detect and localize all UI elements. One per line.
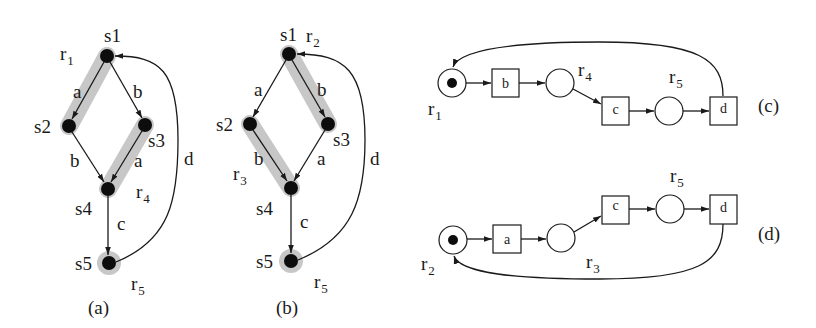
state-s1 bbox=[282, 47, 296, 61]
state-s2 bbox=[243, 117, 257, 131]
label-s2: s2 bbox=[216, 114, 233, 135]
place-r4 bbox=[546, 69, 574, 97]
token bbox=[448, 235, 458, 245]
label-s3: s3 bbox=[148, 130, 165, 151]
label-s1: s1 bbox=[280, 24, 297, 45]
edge-label-a: a bbox=[317, 148, 326, 169]
edge-label-a: a bbox=[134, 150, 143, 171]
state-s5 bbox=[102, 256, 116, 270]
place-r5 bbox=[656, 195, 684, 223]
edge-label-a: a bbox=[254, 79, 263, 100]
state-s4 bbox=[101, 182, 115, 196]
caption-a: (a) bbox=[88, 297, 109, 319]
caption-c: (c) bbox=[758, 95, 779, 117]
region-label-r3: r3 bbox=[233, 163, 247, 188]
region-label-r2: r2 bbox=[306, 25, 320, 50]
label-s4: s4 bbox=[256, 198, 273, 219]
place-label-r5: r5 bbox=[670, 165, 684, 190]
place-label-r4: r4 bbox=[578, 59, 592, 84]
edge-label-b: b bbox=[317, 79, 327, 100]
edge-label-a: a bbox=[73, 81, 82, 102]
state-s2 bbox=[62, 119, 76, 133]
edge-label-b: b bbox=[133, 81, 143, 102]
edge-label-d: d bbox=[370, 148, 380, 169]
place-label-r2: r2 bbox=[421, 253, 435, 278]
panel-d: a c d r2 r3 r5 (d) bbox=[421, 165, 780, 279]
edge-label-c: c bbox=[300, 211, 308, 232]
state-s4 bbox=[284, 181, 298, 195]
place-label-r1: r1 bbox=[428, 98, 442, 123]
label-s1: s1 bbox=[104, 25, 121, 46]
transition-label-a: a bbox=[504, 232, 511, 247]
edge-label-b: b bbox=[70, 150, 80, 171]
figure-canvas: s1 s2 s3 s4 s5 a b b a c d r1 r4 r5 (a) … bbox=[0, 0, 816, 328]
edge-label-b: b bbox=[254, 148, 264, 169]
panel-c: b c d r1 r4 r5 (c) bbox=[428, 42, 779, 125]
transition-label-b: b bbox=[502, 76, 509, 91]
place-r3 bbox=[547, 224, 575, 252]
panel-b: s1 s2 s3 s4 s5 a b b a c d r2 r3 r5 (b) bbox=[216, 24, 380, 319]
transition-label-d: d bbox=[720, 101, 727, 116]
arc-r4-c bbox=[573, 89, 601, 104]
transition-label-c: c bbox=[612, 102, 618, 117]
region-label-r5: r5 bbox=[314, 271, 328, 296]
label-s4: s4 bbox=[75, 198, 92, 219]
region-label-r4: r4 bbox=[136, 181, 150, 206]
edge-label-d: d bbox=[184, 148, 194, 169]
transition-label-c: c bbox=[612, 198, 618, 213]
state-s1 bbox=[100, 49, 114, 63]
place-r5 bbox=[655, 97, 683, 125]
state-s5 bbox=[284, 254, 298, 268]
caption-b: (b) bbox=[276, 297, 298, 319]
place-label-r5: r5 bbox=[669, 66, 683, 91]
region-label-r1: r1 bbox=[60, 43, 74, 68]
arc-r3-c bbox=[574, 216, 601, 232]
label-s5: s5 bbox=[75, 253, 92, 274]
transition-label-d: d bbox=[720, 200, 727, 215]
label-s3: s3 bbox=[333, 129, 350, 150]
panel-a: s1 s2 s3 s4 s5 a b b a c d r1 r4 r5 (a) bbox=[34, 25, 194, 319]
caption-d: (d) bbox=[758, 223, 780, 245]
place-label-r3: r3 bbox=[586, 251, 600, 276]
edge-label-c: c bbox=[117, 213, 125, 234]
label-s2: s2 bbox=[34, 116, 51, 137]
token bbox=[447, 78, 457, 88]
label-s5: s5 bbox=[256, 251, 273, 272]
region-label-r5: r5 bbox=[131, 273, 145, 298]
